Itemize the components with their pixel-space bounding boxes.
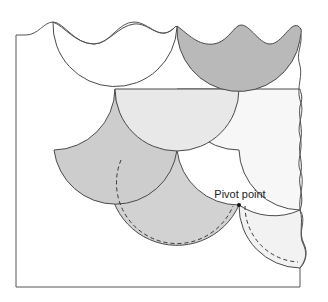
scallop-diagram: Pivot point (0, 0, 328, 302)
pivot-point-dot (237, 203, 241, 207)
top-right-scale (177, 25, 301, 91)
pivot-point-label: Pivot point (214, 188, 265, 200)
bottom-right-scale (239, 205, 306, 268)
